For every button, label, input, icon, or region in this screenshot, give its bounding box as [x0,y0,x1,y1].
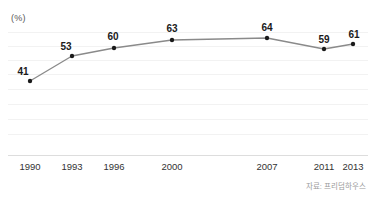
data-point [351,42,355,46]
data-label: 61 [348,29,359,40]
x-axis-tick-1993: 1993 [61,161,82,172]
data-label: 60 [107,31,118,42]
data-point [265,36,269,40]
data-label: 64 [261,22,272,33]
chart-container: (%) 41 53 60 63 64 59 61 1990 1993 1996 … [0,0,374,200]
x-axis-tick-1996: 1996 [103,161,124,172]
data-label: 41 [17,66,28,77]
data-label: 63 [166,23,177,34]
data-point [70,54,74,58]
x-axis-tick-2011: 2011 [314,161,334,172]
data-point [170,38,174,42]
source-attribution: 자료: 프리덤하우스 [306,180,366,191]
x-axis-tick-1990: 1990 [19,161,40,172]
data-point [28,79,32,83]
x-axis-tick-2013: 2013 [342,161,363,172]
data-point [112,46,116,50]
data-point [322,47,326,51]
data-label: 59 [318,34,329,45]
data-line [30,38,353,81]
x-axis-tick-2000: 2000 [161,161,182,172]
data-label: 53 [60,41,71,52]
x-axis-tick-2007: 2007 [256,161,277,172]
